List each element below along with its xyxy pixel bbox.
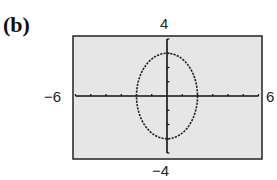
y-min-label: −4 <box>152 163 169 178</box>
y-max-label: 4 <box>160 16 168 31</box>
x-max-label: 6 <box>266 89 274 104</box>
x-min-label: −6 <box>44 89 61 104</box>
calculator-graph <box>0 0 277 180</box>
